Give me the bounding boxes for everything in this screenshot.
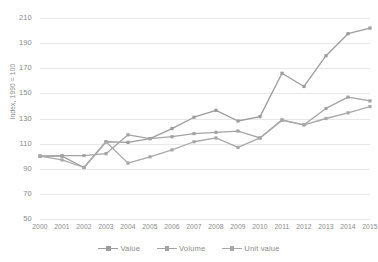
gridline	[40, 219, 370, 220]
data-point-marker	[38, 155, 41, 158]
y-axis-tick-label: 150	[19, 90, 32, 98]
x-axis-tick-label: 2010	[252, 224, 268, 231]
x-axis-tick-label: 2006	[164, 224, 180, 231]
series-line	[40, 97, 370, 156]
data-point-marker	[192, 132, 195, 135]
x-axis-tick-label: 2015	[362, 224, 378, 231]
data-point-marker	[148, 155, 151, 158]
plot-area	[40, 18, 370, 219]
data-point-marker	[346, 32, 349, 35]
chart-legend: ValueVolumeUnit value	[0, 244, 378, 253]
y-axis-tick-label: 210	[19, 14, 32, 22]
x-axis-tick-label: 2009	[230, 224, 246, 231]
data-point-marker	[346, 96, 349, 99]
y-axis-tick-label: 90	[23, 165, 32, 173]
data-point-marker	[280, 72, 283, 75]
data-point-marker	[214, 136, 217, 139]
data-point-marker	[170, 127, 173, 130]
x-axis-tick-label: 2002	[76, 224, 92, 231]
data-point-marker	[104, 152, 107, 155]
legend-item-volume[interactable]: Volume	[157, 244, 205, 253]
x-axis-tick-label: 2001	[54, 224, 70, 231]
series-volume	[38, 96, 371, 158]
data-point-marker	[126, 162, 129, 165]
series-unit-value	[38, 105, 371, 169]
x-axis-tick-label: 2008	[208, 224, 224, 231]
x-axis-tick-label: 2004	[120, 224, 136, 231]
data-point-marker	[214, 131, 217, 134]
legend-marker-icon	[157, 245, 177, 253]
legend-label: Value	[120, 244, 140, 253]
data-point-marker	[302, 85, 305, 88]
series-line	[40, 28, 370, 167]
data-point-marker	[170, 148, 173, 151]
x-axis: 2000200120022003200420052006200720082009…	[40, 224, 370, 236]
data-point-marker	[236, 129, 239, 132]
y-axis-tick-label: 110	[19, 140, 32, 148]
x-axis-tick-label: 2013	[318, 224, 334, 231]
legend-square-icon	[165, 246, 170, 251]
y-axis: 507090110130150170190210	[0, 18, 36, 219]
legend-label: Volume	[179, 244, 205, 253]
legend-marker-icon	[98, 245, 118, 253]
x-axis-tick-label: 2005	[142, 224, 158, 231]
data-point-marker	[236, 119, 239, 122]
y-axis-tick-label: 70	[23, 190, 32, 198]
series-line	[40, 107, 370, 168]
data-point-marker	[324, 54, 327, 57]
x-axis-tick-label: 2000	[32, 224, 48, 231]
data-point-marker	[82, 166, 85, 169]
series-value	[38, 26, 371, 169]
data-point-marker	[170, 135, 173, 138]
data-point-marker	[324, 107, 327, 110]
data-point-marker	[60, 158, 63, 161]
y-axis-tick-label: 170	[19, 65, 32, 73]
data-point-marker	[192, 140, 195, 143]
line-chart: Index, 1990 = 100 5070901101301501701902…	[0, 0, 378, 262]
data-point-marker	[258, 136, 261, 139]
data-point-marker	[148, 137, 151, 140]
data-point-marker	[346, 111, 349, 114]
data-point-marker	[302, 123, 305, 126]
legend-item-value[interactable]: Value	[98, 244, 140, 253]
legend-item-unit-value[interactable]: Unit value	[222, 244, 279, 253]
x-axis-tick-label: 2011	[274, 224, 289, 231]
data-point-marker	[82, 154, 85, 157]
y-axis-tick-label: 130	[19, 115, 32, 123]
x-axis-tick-label: 2014	[340, 224, 356, 231]
data-point-marker	[126, 141, 129, 144]
data-point-marker	[258, 115, 261, 118]
data-point-marker	[236, 146, 239, 149]
data-point-marker	[368, 26, 371, 29]
data-point-marker	[126, 133, 129, 136]
data-point-marker	[214, 109, 217, 112]
legend-square-icon	[230, 246, 235, 251]
y-axis-tick-label: 190	[19, 39, 32, 47]
legend-square-icon	[106, 246, 111, 251]
data-point-marker	[60, 154, 63, 157]
x-axis-tick-label: 2003	[98, 224, 114, 231]
y-axis-tick-label: 50	[23, 215, 32, 223]
series-layer	[40, 18, 370, 219]
data-point-marker	[368, 99, 371, 102]
data-point-marker	[368, 105, 371, 108]
data-point-marker	[192, 116, 195, 119]
data-point-marker	[324, 117, 327, 120]
x-axis-tick-label: 2007	[186, 224, 202, 231]
x-axis-tick-label: 2012	[296, 224, 312, 231]
data-point-marker	[104, 140, 107, 143]
data-point-marker	[280, 119, 283, 122]
legend-marker-icon	[222, 245, 242, 253]
legend-label: Unit value	[244, 244, 279, 253]
